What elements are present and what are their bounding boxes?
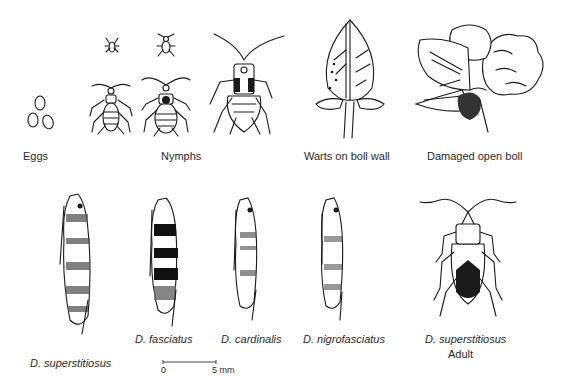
label-d-nigrofasciatus: D. nigrofasciatus xyxy=(303,333,385,345)
label-eggs: Eggs xyxy=(23,150,48,162)
label-d-superstitiosus: D. superstitiosus xyxy=(30,357,111,369)
label-d-cardinalis: D. cardinalis xyxy=(221,333,282,345)
label-warts-on-boll-wall: Warts on boll wall xyxy=(304,150,390,162)
nymph-second-instar xyxy=(157,34,175,56)
eggs-drawing xyxy=(28,96,55,130)
nymph-fourth-instar xyxy=(142,78,190,136)
adult-dorsal-view xyxy=(420,199,516,316)
scale-bar-start: 0 xyxy=(161,365,166,375)
side-view-d-fasciatus xyxy=(150,198,178,326)
label-d-fasciatus: D. fasciatus xyxy=(135,333,192,345)
damaged-open-boll xyxy=(416,25,543,132)
scale-bar xyxy=(163,360,216,364)
label-adult-species: D. superstitiosus xyxy=(425,333,506,345)
nymph-fifth-instar xyxy=(210,34,284,134)
label-damaged-open-boll: Damaged open boll xyxy=(427,150,522,162)
side-view-d-nigrofasciatus xyxy=(322,198,343,320)
nymph-third-instar xyxy=(90,84,132,134)
nymph-first-instar xyxy=(105,38,119,52)
side-view-d-cardinalis xyxy=(234,198,257,320)
boll-wall-section xyxy=(316,20,384,138)
side-view-d-superstitiosus xyxy=(60,194,90,334)
label-nymphs: Nymphs xyxy=(161,150,201,162)
illustration-canvas xyxy=(0,0,575,390)
scale-bar-end: 5 mm xyxy=(212,365,235,375)
label-adult: Adult xyxy=(448,348,473,360)
